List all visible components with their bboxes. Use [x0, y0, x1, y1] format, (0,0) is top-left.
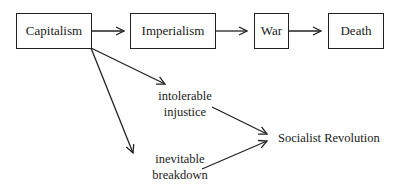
node-socialist-revolution: Socialist Revolution — [278, 130, 396, 146]
injustice-line-2: injustice — [145, 104, 225, 120]
node-capitalism: Capitalism — [16, 13, 92, 49]
arrow-capitalism-to-injustice — [91, 48, 165, 84]
node-death: Death — [328, 13, 384, 49]
node-war: War — [254, 13, 289, 49]
node-capitalism-label: Capitalism — [26, 23, 82, 39]
node-imperialism-label: Imperialism — [142, 23, 205, 39]
socialist-revolution-label: Socialist Revolution — [278, 131, 380, 145]
node-imperialism: Imperialism — [130, 13, 216, 49]
breakdown-line-2: breakdown — [140, 167, 220, 183]
breakdown-line-1: inevitable — [140, 151, 220, 167]
arrow-capitalism-to-breakdown — [91, 48, 133, 153]
node-inevitable-breakdown: inevitable breakdown — [140, 151, 220, 183]
node-intolerable-injustice: intolerable injustice — [145, 88, 225, 120]
node-war-label: War — [261, 23, 282, 39]
node-death-label: Death — [340, 23, 371, 39]
injustice-line-1: intolerable — [145, 88, 225, 104]
